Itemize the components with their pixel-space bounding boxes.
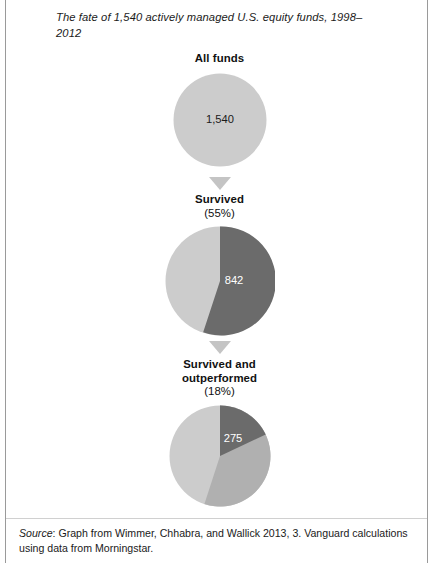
stage-arrow-1 <box>0 177 439 190</box>
stage-survived-outperformed: Survived and outperformed (18%) 275 <box>0 358 439 507</box>
source-text: : Graph from Wimmer, Chhabra, and Wallic… <box>19 527 408 554</box>
pie-chart-survived-outperformed: 275 <box>169 405 271 507</box>
stage-survived: Survived (55%) 842 <box>0 193 439 336</box>
stage-label-survived: Survived <box>0 193 439 207</box>
triangle-down-icon <box>209 177 231 190</box>
stage-label-survived-outperformed-line1: Survived and <box>0 358 439 372</box>
pie-chart-all-funds: 1,540 <box>173 73 267 167</box>
source-label: Source <box>19 527 53 539</box>
pie-value-label-survived-outperformed: 275 <box>223 432 242 444</box>
stage-percent-survived-outperformed: (18%) <box>0 385 439 399</box>
stage-arrow-2 <box>0 341 439 354</box>
pie-svg-all-funds: 1,540 <box>173 73 267 167</box>
source-note: Source: Graph from Wimmer, Chhabra, and … <box>19 526 419 556</box>
pie-svg-survived-outperformed: 275 <box>169 405 271 507</box>
pie-svg-survived: 842 <box>165 226 275 336</box>
triangle-down-icon <box>209 341 231 354</box>
figure-panel: The fate of 1,540 actively managed U.S. … <box>0 0 439 563</box>
pie-chart-survived: 842 <box>165 226 275 336</box>
stage-label-survived-outperformed-line2: outperformed <box>0 372 439 386</box>
pie-value-label-survived: 842 <box>224 274 243 286</box>
figure-title: The fate of 1,540 actively managed U.S. … <box>56 9 386 41</box>
stage-label-all-funds: All funds <box>0 52 439 66</box>
stage-all-funds: All funds 1,540 <box>0 52 439 167</box>
footer-divider <box>6 518 427 519</box>
stage-percent-survived: (55%) <box>0 207 439 221</box>
pie-value-label-all-funds: 1,540 <box>206 113 234 125</box>
